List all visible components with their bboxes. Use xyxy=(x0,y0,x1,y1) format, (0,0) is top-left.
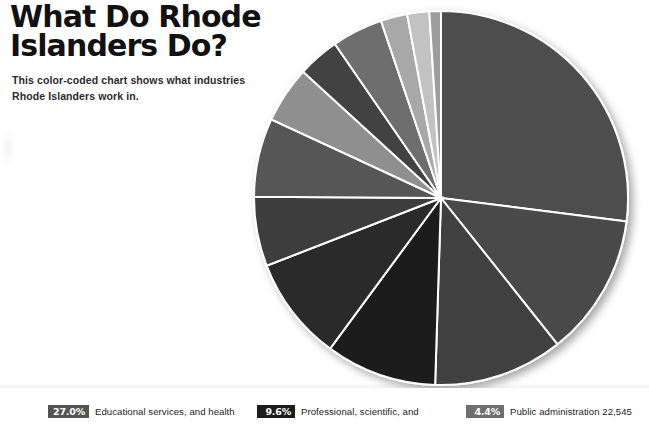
pie-slice xyxy=(441,11,628,221)
legend-label: Professional, scientific, and xyxy=(301,406,419,417)
page-title: What Do Rhode Islanders Do? xyxy=(10,2,310,60)
legend-item: 9.6%Professional, scientific, and xyxy=(257,405,419,418)
legend-item: 27.0%Educational services, and health xyxy=(48,405,235,418)
header: What Do Rhode Islanders Do? This color-c… xyxy=(10,2,310,105)
legend-swatch: 9.6% xyxy=(257,405,295,418)
legend-swatch: 27.0% xyxy=(48,405,89,418)
legend-label: Educational services, and health xyxy=(95,406,235,417)
legend-label: Public administration 22,545 xyxy=(510,406,632,417)
pie-slice-group xyxy=(254,11,628,385)
legend-swatch: 4.4% xyxy=(466,405,504,418)
page-subtitle: This color-coded chart shows what indust… xyxy=(12,72,274,105)
legend: 27.0%Educational services, and health9.6… xyxy=(0,388,649,424)
legend-item: 4.4%Public administration 22,545 xyxy=(466,405,632,418)
